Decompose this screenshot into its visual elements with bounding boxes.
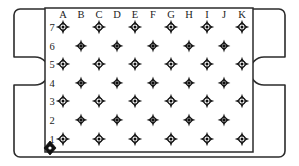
column-header-a: A [59, 9, 67, 20]
column-header-j: J [222, 9, 226, 20]
row-label-2: 2 [49, 115, 54, 126]
pin-core-icon [222, 118, 225, 121]
pin-core-icon [62, 63, 65, 66]
pin-core-icon [115, 81, 118, 84]
pin-core-icon [134, 26, 137, 29]
pin-core-icon [187, 44, 190, 47]
row-label-6: 6 [49, 41, 54, 52]
pin-core-icon [206, 26, 209, 29]
pin-core-icon [151, 118, 154, 121]
pin-core-icon [79, 118, 82, 121]
pin-core-icon [206, 63, 209, 66]
pin-core-icon [98, 63, 101, 66]
pin-core-icon [134, 63, 137, 66]
pin-core-icon [170, 26, 173, 29]
pin-core-icon [151, 44, 154, 47]
pin-core-icon [241, 138, 244, 141]
row-label-7: 7 [49, 22, 54, 33]
column-header-h: H [185, 9, 193, 20]
pin-core-icon [79, 44, 82, 47]
pin-field-boundary [45, 8, 253, 152]
pin-core-icon [98, 26, 101, 29]
column-header-d: D [113, 9, 121, 20]
pin-core-icon [115, 44, 118, 47]
pin-core-icon [170, 100, 173, 103]
column-header-i: I [205, 9, 209, 20]
column-header-e: E [132, 9, 138, 20]
pin-core-icon [98, 100, 101, 103]
pin-core-icon [187, 81, 190, 84]
pin-core-icon [170, 63, 173, 66]
pin-core-icon [134, 100, 137, 103]
column-header-k: K [238, 9, 246, 20]
pin-core-icon [98, 138, 101, 141]
column-header-b: B [77, 9, 84, 20]
connector-pinout-diagram: ABCDEFGHIJK 7654321 Connector Pin Layout [0, 0, 299, 166]
column-header-f: F [150, 9, 156, 20]
pin-core-icon [206, 100, 209, 103]
pin-core-icon [222, 44, 225, 47]
pin-core-icon [151, 81, 154, 84]
row-label-3: 3 [49, 96, 54, 107]
pin-core-icon [222, 81, 225, 84]
pin-core-icon [206, 138, 209, 141]
pin-core-icon [79, 81, 82, 84]
pin-core-icon [170, 138, 173, 141]
pin-core-icon [241, 63, 244, 66]
pin-core-icon [134, 138, 137, 141]
pin-core-icon [62, 100, 65, 103]
column-header-c: C [95, 9, 102, 20]
pin-core-icon [241, 26, 244, 29]
pin-core-icon [62, 26, 65, 29]
pin-core-icon [62, 138, 65, 141]
row-label-4: 4 [49, 78, 55, 89]
row-label-5: 5 [49, 59, 54, 70]
pin-one-diamond-core [48, 146, 51, 149]
connector-diagram-canvas: ABCDEFGHIJK 7654321 [0, 0, 299, 166]
pin-core-icon [187, 118, 190, 121]
pin-core-icon [241, 100, 244, 103]
column-header-g: G [167, 9, 175, 20]
pin-core-icon [115, 118, 118, 121]
